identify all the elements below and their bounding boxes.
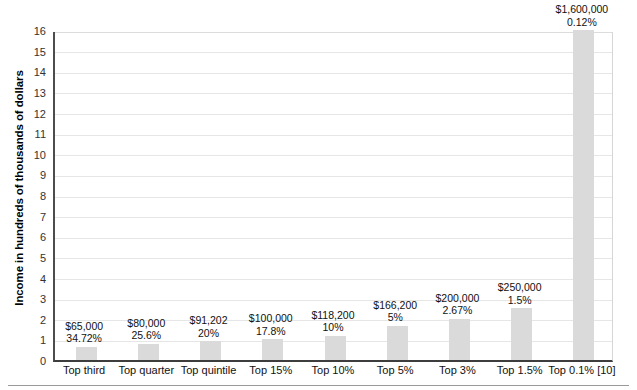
bar — [325, 336, 346, 360]
footer-divider — [8, 385, 629, 386]
y-axis-tick-label: 10 — [12, 149, 46, 161]
y-axis-tick-label: 9 — [12, 169, 46, 181]
bar — [262, 339, 283, 360]
bar — [449, 319, 470, 360]
bar-value-percent: 1.5% — [481, 294, 559, 307]
bar — [76, 347, 97, 360]
y-axis-tick-label: 5 — [12, 252, 46, 264]
y-axis-tick-label: 4 — [12, 273, 46, 285]
bar-value-label: $1,600,0000.12% — [543, 3, 621, 28]
bar-value-amount: $250,000 — [481, 281, 559, 294]
gridline — [55, 258, 612, 259]
y-axis-tick-label: 16 — [12, 25, 46, 37]
y-axis-tick-label: 13 — [12, 87, 46, 99]
y-axis-tick-label: 3 — [12, 293, 46, 305]
gridline — [55, 279, 612, 280]
gridline — [55, 32, 612, 33]
y-axis-tick-label: 1 — [12, 334, 46, 346]
bar — [387, 326, 408, 360]
bar — [573, 30, 594, 360]
bar — [138, 344, 159, 361]
bar-value-percent: 0.12% — [543, 16, 621, 29]
y-axis-tick-label: 14 — [12, 66, 46, 78]
gridline — [55, 197, 612, 198]
y-axis-tick-label: 11 — [12, 128, 46, 140]
x-axis-tick-labels: Top thirdTop quarterTop quintileTop 15%T… — [53, 364, 613, 384]
y-axis-tick-label: 6 — [12, 231, 46, 243]
gridline — [55, 176, 612, 177]
gridline — [55, 155, 612, 156]
gridline — [55, 114, 612, 115]
bar — [200, 341, 221, 360]
y-axis-tick-label: 15 — [12, 46, 46, 58]
gridline — [55, 135, 612, 136]
gridline — [55, 217, 612, 218]
y-axis-tick-label: 7 — [12, 211, 46, 223]
bar-value-amount: $1,600,000 — [543, 3, 621, 16]
y-axis-tick-label: 8 — [12, 190, 46, 202]
y-axis-tick-label: 12 — [12, 108, 46, 120]
bar — [511, 308, 532, 360]
gridline — [55, 52, 612, 53]
bar-value-label: $250,0001.5% — [481, 281, 559, 306]
x-axis-tick-label: Top 0.1% [10] — [544, 364, 620, 376]
gridline — [55, 238, 612, 239]
y-axis-tick-label: 0 — [12, 355, 46, 367]
gridline — [55, 73, 612, 74]
bar-chart: Income in hundreds of thousands of dolla… — [0, 0, 637, 390]
y-axis-tick-label: 2 — [12, 314, 46, 326]
gridline — [55, 93, 612, 94]
